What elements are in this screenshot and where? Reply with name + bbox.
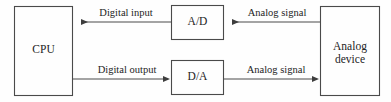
block-diagram: CPU A/D D/A Analog device Analog signal …	[0, 0, 391, 102]
node-ad	[172, 6, 224, 40]
node-analog-device	[321, 7, 380, 96]
diagram-canvas	[0, 0, 391, 102]
node-da	[172, 61, 224, 95]
node-cpu	[15, 7, 73, 96]
